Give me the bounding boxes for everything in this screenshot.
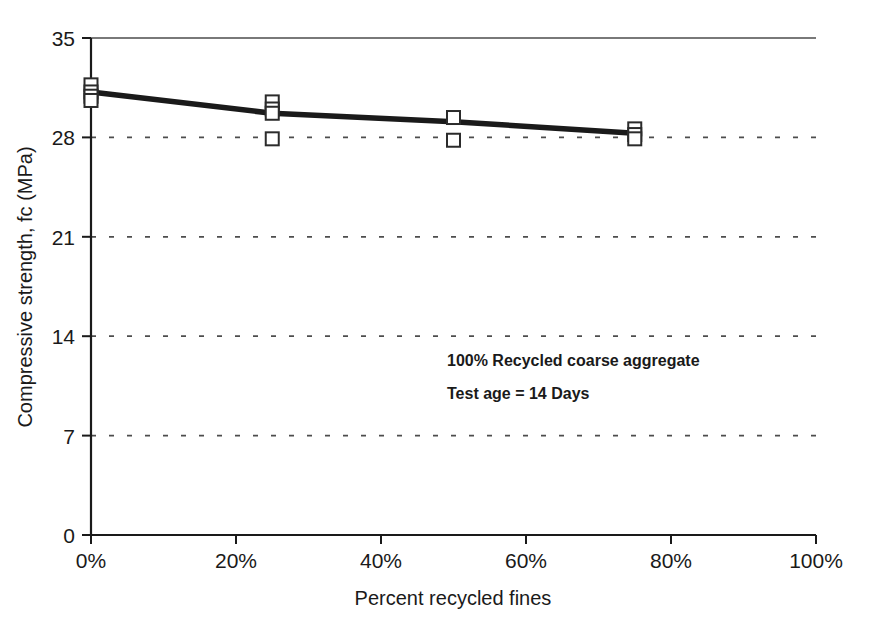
annotation-line-1: 100% Recycled coarse aggregate [447, 352, 700, 369]
data-point-marker [85, 94, 98, 107]
x-tick-label: 100% [789, 549, 843, 572]
data-point-marker [447, 111, 460, 124]
y-tick-label: 35 [52, 27, 75, 50]
data-point-marker [628, 132, 641, 145]
y-tick-label: 28 [52, 126, 75, 149]
data-point-marker [266, 107, 279, 120]
y-axis-title: Compressive strength, fc (MPa) [14, 146, 36, 427]
x-tick-label: 80% [650, 549, 692, 572]
data-point-marker [447, 134, 460, 147]
x-tick-label: 40% [360, 549, 402, 572]
data-point-marker [266, 132, 279, 145]
x-tick-label: 20% [215, 549, 257, 572]
x-tick-label: 60% [505, 549, 547, 572]
y-tick-label: 21 [52, 226, 75, 249]
y-tick-label: 0 [63, 524, 75, 547]
x-tick-label: 0% [76, 549, 106, 572]
y-tick-label: 7 [63, 425, 75, 448]
compressive-strength-scatter-chart: 0%20%40%60%80%100% 0714212835 Percent re… [0, 0, 873, 630]
chart-figure: 0%20%40%60%80%100% 0714212835 Percent re… [0, 0, 873, 630]
annotation-line-2: Test age = 14 Days [447, 385, 590, 402]
x-axis-title: Percent recycled fines [355, 587, 552, 609]
y-tick-label: 14 [52, 325, 76, 348]
